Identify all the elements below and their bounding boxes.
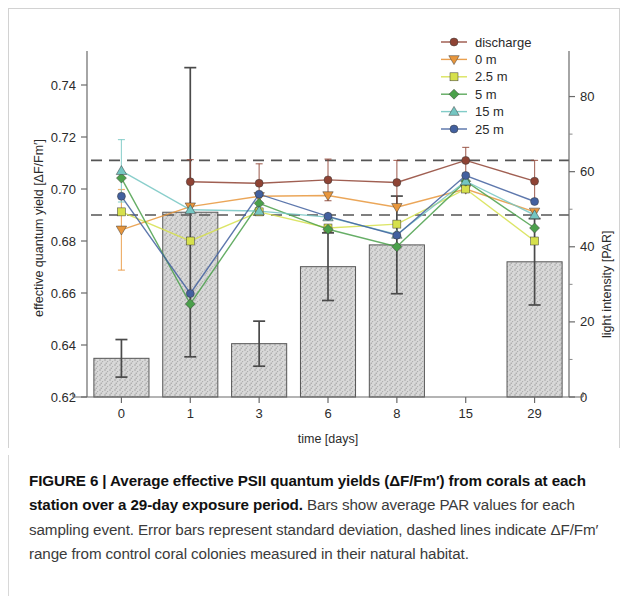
data-point-5-m bbox=[530, 223, 540, 233]
chart-canvas: 0.740.720.700.680.660.640.62806040200013… bbox=[9, 9, 621, 449]
figure-caption-text: FIGURE 6 | Average effective PSII quantu… bbox=[29, 469, 604, 567]
data-point-0-m bbox=[392, 203, 402, 212]
x-tick-label: 29 bbox=[527, 406, 541, 421]
data-point-25-m bbox=[462, 171, 470, 179]
y-tick-label-left: 0.66 bbox=[51, 286, 76, 301]
data-point-discharge bbox=[186, 178, 194, 186]
legend-label-0-m: 0 m bbox=[475, 52, 497, 67]
x-axis-title: time [days] bbox=[298, 432, 358, 446]
legend-label-25-m: 25 m bbox=[475, 122, 504, 137]
data-point-discharge bbox=[393, 179, 401, 187]
legend-marker-discharge bbox=[450, 38, 458, 46]
legend-marker-2-5-m bbox=[450, 73, 458, 81]
y-tick-label-left: 0.72 bbox=[51, 130, 76, 145]
legend-label-2-5-m: 2.5 m bbox=[475, 69, 508, 84]
legend-label-5-m: 5 m bbox=[475, 87, 497, 102]
x-tick-label: 15 bbox=[458, 406, 472, 421]
data-point-25-m bbox=[117, 192, 125, 200]
y-tick-label-left: 0.74 bbox=[51, 78, 76, 93]
legend-marker-0-m bbox=[449, 56, 459, 65]
y-tick-label-right: 60 bbox=[580, 164, 594, 179]
data-point-25-m bbox=[531, 197, 539, 205]
data-point-0-m bbox=[116, 226, 126, 235]
data-point-2-5-m bbox=[117, 208, 125, 216]
legend-marker-25-m bbox=[450, 125, 458, 133]
figure-page: 0.740.720.700.680.660.640.62806040200013… bbox=[0, 0, 628, 604]
data-point-discharge bbox=[324, 176, 332, 184]
y-tick-label-left: 0.68 bbox=[51, 234, 76, 249]
data-point-25-m bbox=[255, 190, 263, 198]
data-point-25-m bbox=[324, 212, 332, 220]
series-line-discharge bbox=[190, 160, 534, 183]
data-point-discharge bbox=[255, 179, 263, 187]
y-tick-label-right: 80 bbox=[580, 89, 594, 104]
y-axis-title-left: effective quantum yield [ΔF/Fm′] bbox=[32, 139, 46, 317]
legend-label-discharge: discharge bbox=[475, 35, 531, 50]
legend-marker-5-m bbox=[449, 89, 459, 99]
x-tick-label: 0 bbox=[118, 406, 125, 421]
figure-plot-panel: 0.740.720.700.680.660.640.62806040200013… bbox=[8, 8, 620, 448]
x-tick-label: 1 bbox=[187, 406, 194, 421]
y-tick-label-right: 40 bbox=[580, 239, 594, 254]
data-point-discharge bbox=[462, 156, 470, 164]
x-tick-label: 3 bbox=[256, 406, 263, 421]
data-point-15-m bbox=[116, 166, 126, 175]
data-point-discharge bbox=[531, 177, 539, 185]
y-tick-label-left: 0.62 bbox=[51, 390, 76, 405]
data-point-2-5-m bbox=[186, 237, 194, 245]
data-point-2-5-m bbox=[393, 220, 401, 228]
legend-label-15-m: 15 m bbox=[475, 104, 504, 119]
y-axis-title-right: light intensity [PAR] bbox=[600, 231, 614, 338]
x-tick-label: 8 bbox=[393, 406, 400, 421]
y-tick-label-left: 0.70 bbox=[51, 182, 76, 197]
y-tick-label-right: 20 bbox=[580, 314, 594, 329]
data-point-25-m bbox=[186, 290, 194, 298]
legend-marker-15-m bbox=[449, 106, 459, 115]
data-point-2-5-m bbox=[531, 237, 539, 245]
x-tick-label: 6 bbox=[324, 406, 331, 421]
y-tick-label-left: 0.64 bbox=[51, 338, 76, 353]
figure-caption: FIGURE 6 | Average effective PSII quantu… bbox=[8, 455, 620, 596]
data-point-25-m bbox=[393, 231, 401, 239]
